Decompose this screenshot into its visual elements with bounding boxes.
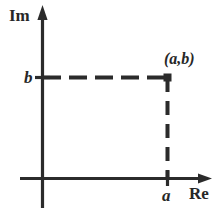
- real-axis-arrowhead-icon: [198, 173, 212, 183]
- point-marker-ab: [164, 74, 172, 82]
- tick-label-b: b: [24, 69, 33, 86]
- real-axis-label: Re: [189, 185, 209, 202]
- diagram-canvas: [0, 0, 223, 210]
- imaginary-axis-label: Im: [9, 7, 30, 24]
- point-label-ab: (a,b): [164, 51, 195, 67]
- complex-plane-diagram: Im Re b a (a,b): [0, 0, 223, 210]
- imaginary-axis-arrowhead-icon: [37, 5, 47, 20]
- tick-label-a: a: [162, 187, 171, 204]
- real-axis: [20, 173, 212, 183]
